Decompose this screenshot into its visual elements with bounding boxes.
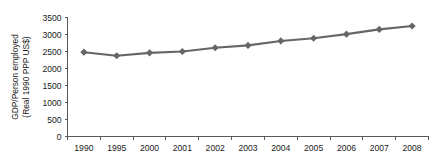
data-point-marker [180,49,185,54]
x-tick-label: 1995 [107,143,126,153]
chart-figure: 0500100015002000250030003500199019952000… [0,0,437,162]
y-tick-label: 1500 [42,81,61,91]
x-tick-label: 2004 [271,143,290,153]
x-tick-label: 2001 [173,143,192,153]
y-tick-label: 1000 [42,98,61,108]
y-tick-label: 2500 [42,47,61,57]
x-tick-label: 2005 [304,143,323,153]
y-tick-label: 3000 [42,30,61,40]
y-tick-label: 500 [47,115,62,125]
data-point-markers [81,23,414,58]
y-tick-label: 3500 [42,13,61,23]
data-point-marker [213,45,218,50]
x-tick-label: 2000 [140,143,159,153]
data-point-marker [311,36,316,41]
y-axis-title-line: GDP/Person employed [10,34,20,120]
y-axis-ticks: 0500100015002000250030003500 [42,13,67,142]
y-axis-title-line: (Real 1990 PPP US$) [21,36,31,118]
x-tick-label: 1990 [74,143,93,153]
data-series-line [84,26,412,56]
data-point-marker [147,50,152,55]
y-axis-title: GDP/Person employed(Real 1990 PPP US$) [10,34,31,120]
data-point-marker [81,50,86,55]
data-point-marker [344,32,349,37]
data-point-marker [278,38,283,43]
data-point-marker [114,53,119,58]
x-tick-label: 2003 [238,143,257,153]
x-axis-ticks: 1990199520002001200220032004200520062007… [68,137,429,153]
data-point-marker [377,27,382,32]
data-point-marker [409,23,414,28]
y-tick-label: 0 [57,132,62,142]
x-tick-label: 2007 [370,143,389,153]
x-tick-label: 2002 [206,143,225,153]
y-tick-label: 2000 [42,64,61,74]
x-tick-label: 2006 [337,143,356,153]
x-tick-label: 2008 [403,143,422,153]
data-point-marker [245,43,250,48]
line-chart: 0500100015002000250030003500199019952000… [0,0,437,162]
